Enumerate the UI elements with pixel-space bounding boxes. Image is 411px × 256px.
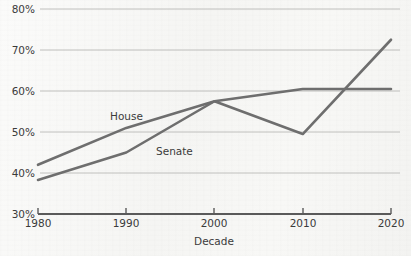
ytick-label-40: 40% [12, 167, 35, 179]
ytick-label-70: 70% [12, 44, 35, 56]
x-axis [38, 208, 391, 214]
gridlines [40, 9, 400, 173]
xtick-label-2020: 2020 [378, 217, 405, 229]
y-axis-tick-labels: 80% 70% 60% 50% 40% 30% [12, 3, 35, 220]
xtick-label-2010: 2010 [290, 217, 317, 229]
series-annotations: House Senate [110, 110, 193, 157]
ytick-label-60: 60% [12, 85, 35, 97]
ytick-label-80: 80% [12, 3, 35, 15]
series-label-senate: Senate [156, 145, 193, 157]
series-line-senate [38, 40, 391, 180]
line-chart: 80% 70% 60% 50% 40% 30% 1980 1990 2000 2… [0, 0, 411, 256]
xtick-label-1980: 1980 [25, 217, 52, 229]
xtick-label-1990: 1990 [113, 217, 140, 229]
data-series [38, 40, 391, 180]
x-axis-tick-labels: 1980 1990 2000 2010 2020 [25, 217, 405, 229]
ytick-label-50: 50% [12, 126, 35, 138]
series-label-house: House [110, 110, 143, 122]
chart-svg: 80% 70% 60% 50% 40% 30% 1980 1990 2000 2… [0, 0, 411, 256]
xtick-label-2000: 2000 [201, 217, 228, 229]
x-axis-title: Decade [194, 235, 234, 247]
